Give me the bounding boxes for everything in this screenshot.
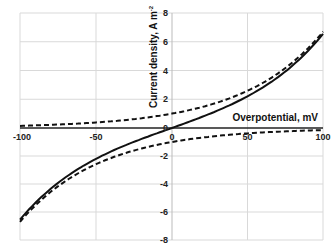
y-tick-label: -8 — [160, 235, 168, 245]
y-axis-title-superscript: -2 — [148, 5, 154, 11]
chart: -100-5005010086420-2-4-6-8 Overpotential… — [0, 0, 334, 249]
y-tick-label: 8 — [163, 8, 168, 18]
y-axis-title-text: Current density, A m — [148, 11, 159, 108]
y-tick-label: -6 — [160, 207, 168, 217]
x-axis-title: Overpotential, mV — [232, 112, 318, 123]
y-tick-label: 2 — [163, 94, 168, 104]
x-tick-label: 100 — [315, 132, 330, 142]
y-tick-label: 4 — [163, 66, 168, 76]
y-tick-label: 6 — [163, 37, 168, 47]
y-tick-label: 0 — [163, 123, 168, 133]
x-tick-label: 50 — [242, 132, 252, 142]
y-axis-title: Current density, A m-2 — [148, 5, 159, 108]
x-tick-label: 0 — [169, 132, 174, 142]
x-tick-label: -50 — [89, 132, 102, 142]
axes — [20, 13, 323, 240]
y-tick-label: -2 — [160, 151, 168, 161]
y-tick-label: -4 — [160, 179, 168, 189]
x-tick-label: -100 — [13, 132, 31, 142]
